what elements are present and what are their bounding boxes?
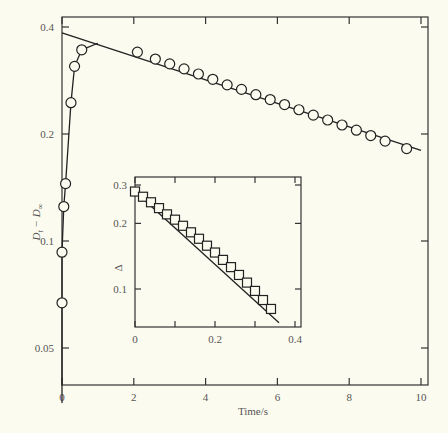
inset-plot: 00.20.40.10.20.3	[113, 177, 302, 345]
inset-y-tick-label: 0.1	[113, 283, 127, 295]
data-point-circle	[265, 95, 275, 105]
x-tick-label: 10	[416, 391, 428, 403]
data-point-circle	[77, 45, 87, 55]
data-point-circle	[337, 120, 347, 130]
inset-y-axis-label: Δ	[112, 264, 124, 271]
data-point-circle	[132, 47, 142, 57]
y-tick-label: 0.1	[40, 235, 54, 247]
data-point-circle	[208, 74, 218, 84]
inset-y-tick-label: 0.3	[113, 179, 127, 191]
fit-line	[62, 43, 98, 403]
data-point-circle	[366, 131, 376, 141]
inset-x-tick-label: 0.2	[208, 333, 222, 345]
x-tick-label: 4	[203, 391, 209, 403]
x-tick-label: 8	[346, 391, 352, 403]
data-point-circle	[61, 179, 71, 189]
data-point-circle	[251, 90, 261, 100]
data-point-circle	[308, 110, 318, 120]
y-axis-label-d: D	[30, 232, 42, 241]
y-tick-label: 0.4	[40, 21, 54, 33]
data-point-circle	[150, 54, 160, 64]
data-point-square	[267, 304, 276, 313]
data-point-circle	[179, 64, 189, 74]
chart-figure: 02468100.050.10.20.4 00.20.40.10.20.3 Ti…	[0, 0, 448, 433]
data-point-circle	[222, 80, 232, 90]
data-point-circle	[66, 98, 76, 108]
data-point-circle	[165, 59, 175, 69]
data-point-circle	[237, 84, 247, 94]
data-point-square	[251, 286, 260, 295]
data-point-circle	[57, 298, 67, 308]
x-tick-label: 6	[275, 391, 281, 403]
inset-y-tick-label: 0.2	[113, 217, 127, 229]
data-point-circle	[70, 61, 80, 71]
data-point-square	[259, 296, 268, 305]
data-point-circle	[280, 100, 290, 110]
inset-x-tick-label: 0.4	[288, 333, 302, 345]
x-tick-label: 2	[131, 391, 137, 403]
data-point-circle	[57, 247, 67, 257]
y-tick-label: 0.05	[35, 342, 55, 354]
y-axis-label-sub-inf: ∞	[36, 203, 45, 209]
data-point-circle	[380, 136, 390, 146]
data-point-circle	[323, 115, 333, 125]
y-tick-label: 0.2	[40, 128, 54, 140]
data-point-circle	[351, 125, 361, 135]
data-point-circle	[294, 105, 304, 115]
x-axis-label: Time/s	[238, 405, 268, 417]
inset-x-tick-label: 0	[132, 333, 138, 345]
data-point-circle	[402, 144, 412, 154]
data-point-circle	[193, 69, 203, 79]
svg-text:Δ: Δ	[112, 264, 124, 271]
data-point-circle	[59, 202, 69, 212]
y-axis-label-dash: − D	[30, 209, 42, 230]
data-point-square	[243, 278, 252, 287]
